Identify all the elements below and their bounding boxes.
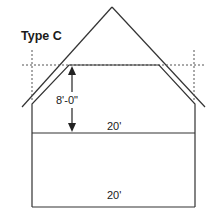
arrow-down-icon <box>68 123 76 132</box>
diagram-title: Type C <box>21 29 62 43</box>
roof-outer-right <box>112 7 205 107</box>
arrow-up-icon <box>68 66 76 75</box>
height-label: 8'-0" <box>56 94 78 106</box>
attic-section-diagram: Type C 8'-0" 20' 20' <box>0 0 215 218</box>
attic-inner-outline <box>32 65 195 207</box>
upper-width-label: 20' <box>107 120 121 132</box>
lower-width-label: 20' <box>107 189 121 201</box>
roof-outer-left <box>22 7 112 107</box>
